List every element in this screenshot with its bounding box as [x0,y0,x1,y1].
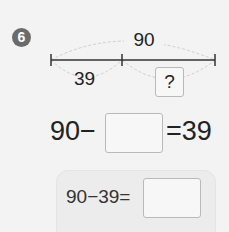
answer-box[interactable] [143,178,201,218]
unknown-box: ? [155,67,184,97]
total-label: 90 [124,29,164,51]
equation-left: 90− [50,116,96,146]
equation-right: =39 [166,116,212,146]
part-label: 39 [74,68,95,90]
answer-expression: 90−39= [66,186,130,208]
tape-diagram [0,0,229,110]
equation-answer-box[interactable] [105,113,163,153]
